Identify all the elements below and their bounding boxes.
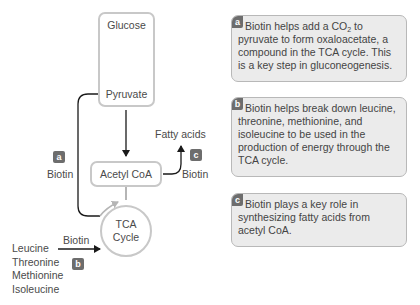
badge-c: c	[190, 149, 202, 161]
note-badge-b: b	[232, 98, 243, 110]
note-badge-a: a	[232, 16, 243, 28]
badge-a: a	[53, 151, 65, 163]
glucose-label: Glucose	[98, 19, 155, 31]
pyruvate-label: Pyruvate	[98, 88, 155, 100]
biotin-label-a: Biotin	[47, 168, 73, 180]
biotin-label-b: Biotin	[63, 234, 89, 246]
biotin-label-c: Biotin	[182, 168, 208, 180]
note-a: a Biotin helps add a CO2 to pyruvate to …	[231, 15, 407, 82]
fatty-acids-label: Fatty acids	[155, 128, 206, 140]
badge-b: b	[72, 258, 84, 270]
note-a-text-start: Biotin helps add a CO	[238, 20, 347, 32]
amino-acid-list: Leucine Threonine Methionine Isoleucine	[12, 242, 63, 296]
amino-acid-leucine: Leucine	[12, 242, 63, 256]
note-badge-c: c	[232, 194, 243, 206]
note-c-text: Biotin plays a key role in synthesizing …	[238, 198, 370, 236]
note-b: b Biotin helps break down leucine, threo…	[231, 97, 407, 177]
amino-acid-isoleucine: Isoleucine	[12, 283, 63, 297]
amino-acid-threonine: Threonine	[12, 256, 63, 270]
tca-label-line1: TCA	[101, 218, 151, 230]
amino-acid-methionine: Methionine	[12, 269, 63, 283]
note-c: c Biotin plays a key role in synthesizin…	[231, 193, 407, 247]
arrow-acetylcoa-fattyacids	[163, 146, 181, 174]
tca-label-line2: Cycle	[101, 231, 151, 243]
note-b-text: Biotin helps break down leucine, threoni…	[238, 102, 396, 166]
arrow-pyruvate-tca	[78, 94, 100, 216]
acetyl-coa-label: Acetyl CoA	[90, 168, 162, 180]
